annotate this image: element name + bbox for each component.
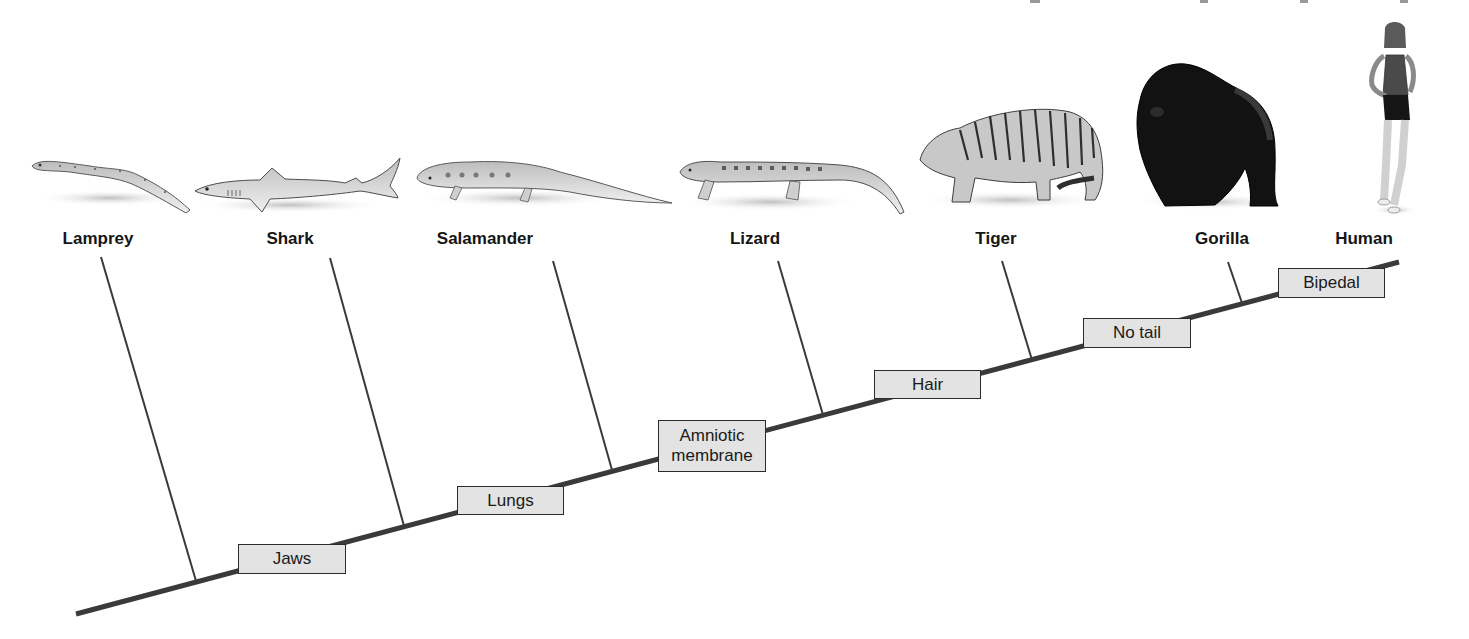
- trait-box-bipedal: Bipedal: [1278, 268, 1385, 298]
- trait-box-amniotic-membrane: Amniotic membrane: [658, 420, 766, 472]
- taxon-label-lizard: Lizard: [730, 229, 780, 249]
- branch-line-lizard: [778, 261, 823, 415]
- trait-box-lungs: Lungs: [457, 486, 564, 515]
- shark-illustration: [195, 158, 400, 213]
- trait-box-jaws: Jaws: [238, 544, 346, 574]
- taxon-label-salamander: Salamander: [437, 229, 533, 249]
- trait-label: No tail: [1113, 323, 1161, 343]
- lamprey-illustration: [32, 161, 190, 213]
- gorilla-illustration: [1135, 64, 1285, 210]
- trait-label: Amniotic membrane: [671, 426, 752, 466]
- branch-line-tiger: [1002, 261, 1032, 360]
- trait-box-hair: Hair: [874, 370, 981, 399]
- taxon-label-lamprey: Lamprey: [63, 229, 134, 249]
- taxon-label-tiger: Tiger: [975, 229, 1016, 249]
- branch-line-salamander: [553, 261, 612, 470]
- human-illustration: [1372, 22, 1417, 215]
- branch-line-shark: [330, 258, 404, 526]
- lizard-illustration: [680, 161, 904, 214]
- cladogram-figure: LampreySharkSalamanderLizardTigerGorilla…: [0, 0, 1469, 639]
- trait-label: Bipedal: [1303, 273, 1360, 293]
- trait-label: Hair: [912, 375, 943, 395]
- branch-line-gorilla: [1228, 262, 1242, 303]
- taxon-label-gorilla: Gorilla: [1195, 229, 1249, 249]
- tiger-illustration: [920, 109, 1103, 209]
- branch-line-lamprey: [101, 257, 196, 581]
- taxon-label-human: Human: [1335, 229, 1393, 249]
- trait-label: Jaws: [273, 549, 312, 569]
- taxon-label-shark: Shark: [266, 229, 313, 249]
- salamander-illustration: [417, 162, 672, 207]
- trait-label: Lungs: [487, 491, 533, 511]
- trait-box-no-tail: No tail: [1083, 318, 1191, 348]
- cladogram-lines: [0, 0, 1469, 639]
